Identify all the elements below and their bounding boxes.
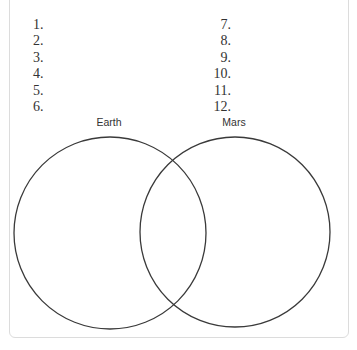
venn-circle-mars xyxy=(140,137,330,327)
venn-diagram xyxy=(0,0,357,350)
venn-circle-earth xyxy=(14,137,206,329)
